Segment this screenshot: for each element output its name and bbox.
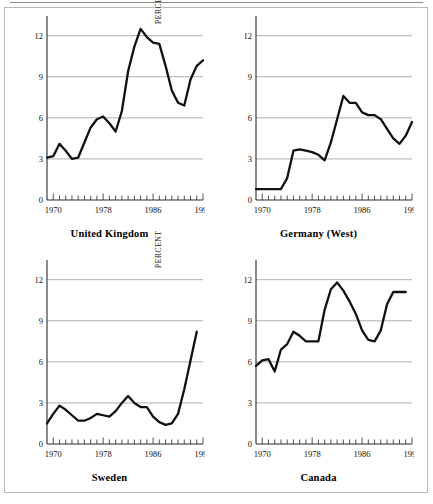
- line-chart-svg-germany-west: 0369121970197819861994: [234, 14, 414, 229]
- svg-text:1986: 1986: [145, 449, 162, 459]
- svg-text:1994: 1994: [195, 449, 206, 459]
- svg-text:1978: 1978: [95, 449, 112, 459]
- plot-area-germany-west: 0369121970197819861994: [234, 14, 414, 229]
- svg-text:1986: 1986: [354, 449, 371, 459]
- svg-text:1978: 1978: [95, 205, 112, 215]
- svg-text:9: 9: [248, 72, 252, 82]
- svg-text:1970: 1970: [254, 205, 271, 215]
- svg-text:0: 0: [248, 439, 252, 449]
- line-chart-svg-sweden: 0369121970197819861994: [25, 258, 205, 473]
- line-chart-svg-canada: 0369121970197819861994: [234, 258, 414, 473]
- svg-text:0: 0: [248, 195, 252, 205]
- svg-text:3: 3: [39, 154, 43, 164]
- panel-grid: PERCENT 0369121970197819861994 United Ki…: [5, 8, 427, 492]
- panel-title-germany-west: Germany (West): [216, 228, 421, 239]
- svg-text:1986: 1986: [354, 205, 371, 215]
- page-top-rule: [10, 2, 423, 3]
- svg-text:1986: 1986: [145, 205, 162, 215]
- svg-text:3: 3: [39, 398, 43, 408]
- svg-text:0: 0: [39, 439, 43, 449]
- svg-text:0: 0: [39, 195, 43, 205]
- line-chart-svg-united-kingdom: 0369121970197819861994: [25, 14, 205, 229]
- chart-panel-sweden: PERCENT 0369121970197819861994 Sweden: [7, 254, 212, 494]
- figure-frame: PERCENT 0369121970197819861994 United Ki…: [4, 7, 428, 493]
- panel-title-united-kingdom: United Kingdom: [7, 228, 212, 239]
- svg-text:1994: 1994: [195, 205, 206, 215]
- chart-panel-canada: PERCENT 0369121970197819861994 Canada: [216, 254, 421, 494]
- svg-text:3: 3: [248, 398, 252, 408]
- svg-text:6: 6: [248, 357, 252, 367]
- svg-text:1970: 1970: [254, 449, 271, 459]
- plot-area-sweden: 0369121970197819861994: [25, 258, 205, 473]
- svg-text:1970: 1970: [45, 205, 62, 215]
- svg-text:3: 3: [248, 154, 252, 164]
- svg-text:6: 6: [39, 357, 43, 367]
- svg-text:12: 12: [244, 31, 253, 41]
- svg-text:1970: 1970: [45, 449, 62, 459]
- svg-text:9: 9: [39, 316, 43, 326]
- panel-title-sweden: Sweden: [7, 472, 212, 483]
- chart-panel-germany-west: PERCENT 0369121970197819861994 Germany (…: [216, 10, 421, 250]
- svg-text:1994: 1994: [404, 205, 415, 215]
- panel-title-canada: Canada: [216, 472, 421, 483]
- svg-text:12: 12: [244, 275, 253, 285]
- svg-text:9: 9: [39, 72, 43, 82]
- svg-text:6: 6: [39, 113, 43, 123]
- svg-text:12: 12: [35, 275, 44, 285]
- svg-text:9: 9: [248, 316, 252, 326]
- svg-text:12: 12: [35, 31, 44, 41]
- chart-panel-united-kingdom: PERCENT 0369121970197819861994 United Ki…: [7, 10, 212, 250]
- plot-area-united-kingdom: 0369121970197819861994: [25, 14, 205, 229]
- svg-text:1978: 1978: [304, 205, 321, 215]
- svg-text:1994: 1994: [404, 449, 415, 459]
- svg-text:1978: 1978: [304, 449, 321, 459]
- plot-area-canada: 0369121970197819861994: [234, 258, 414, 473]
- svg-text:6: 6: [248, 113, 252, 123]
